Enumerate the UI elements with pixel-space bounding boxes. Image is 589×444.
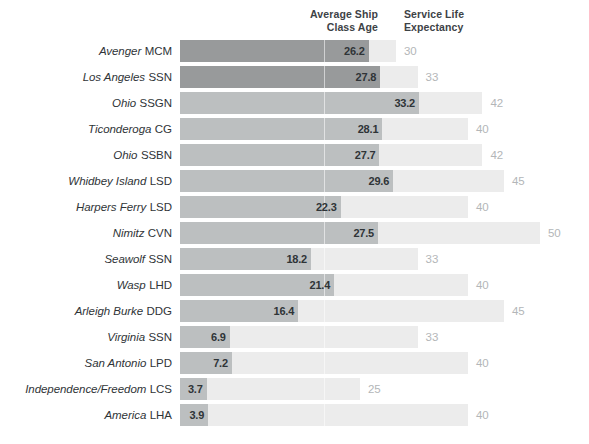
expectancy-value-label: 33 — [426, 248, 439, 270]
expectancy-value-label: 30 — [404, 40, 417, 62]
ship-class-name: Virginia — [107, 331, 145, 343]
row-label: Los AngelesSSN — [0, 66, 172, 88]
row-label: AvengerMCM — [0, 40, 172, 62]
expectancy-value-label: 40 — [476, 118, 489, 140]
ship-class-name: Independence/Freedom — [25, 383, 146, 395]
service-life-expectancy-bar — [180, 144, 482, 166]
gridline-20-years — [324, 300, 325, 322]
expectancy-value-label: 40 — [476, 196, 489, 218]
age-value-label: 7.2 — [198, 352, 228, 374]
ship-class-name: America — [104, 409, 146, 421]
hull-designation: LCS — [150, 383, 172, 395]
expectancy-value-label: 42 — [490, 92, 503, 114]
ship-class-name: Los Angeles — [83, 71, 145, 83]
hull-designation: SSN — [149, 253, 173, 265]
column-header-average-line1: Average Ship — [258, 8, 378, 21]
hull-designation: LPD — [150, 357, 172, 369]
ship-class-name: Seawolf — [104, 253, 145, 265]
age-value-label: 28.1 — [348, 118, 378, 140]
age-value-label: 22.3 — [307, 196, 337, 218]
gridline-20-years — [324, 92, 325, 114]
row-label: WaspLHD — [0, 274, 172, 296]
ship-class-name: Whidbey Island — [68, 175, 146, 187]
age-value-label: 26.2 — [335, 40, 365, 62]
age-value-label: 3.9 — [174, 404, 204, 426]
ship-class-name: Avenger — [99, 45, 141, 57]
chart-row: SeawolfSSN18.233 — [0, 248, 589, 270]
chart-row: VirginiaSSN6.933 — [0, 326, 589, 348]
hull-designation: CG — [155, 123, 172, 135]
row-label: SeawolfSSN — [0, 248, 172, 270]
chart-row: NimitzCVN27.550 — [0, 222, 589, 244]
expectancy-value-label: 33 — [426, 326, 439, 348]
gridline-20-years — [324, 378, 325, 400]
gridline-20-years — [324, 222, 325, 244]
column-header-average-ship-class-age: Average Ship Class Age — [258, 8, 378, 33]
chart-row: San AntonioLPD7.240 — [0, 352, 589, 374]
age-value-label: 18.2 — [277, 248, 307, 270]
ship-class-name: Harpers Ferry — [76, 201, 146, 213]
ship-class-name: San Antonio — [85, 357, 147, 369]
age-value-label: 27.8 — [346, 66, 376, 88]
expectancy-value-label: 40 — [476, 404, 489, 426]
hull-designation: SSN — [149, 71, 173, 83]
expectancy-value-label: 33 — [426, 66, 439, 88]
gridline-20-years — [324, 40, 325, 62]
chart-row: AmericaLHA3.940 — [0, 404, 589, 426]
gridline-20-years — [324, 326, 325, 348]
row-label: NimitzCVN — [0, 222, 172, 244]
gridline-20-years — [324, 144, 325, 166]
service-life-expectancy-bar — [180, 300, 504, 322]
ship-age-chart: Average Ship Class Age Service Life Expe… — [0, 0, 589, 444]
row-label: TiconderogaCG — [0, 118, 172, 140]
column-header-average-line2: Class Age — [258, 21, 378, 34]
age-value-label: 27.7 — [345, 144, 375, 166]
age-value-label: 27.5 — [344, 222, 374, 244]
expectancy-value-label: 40 — [476, 274, 489, 296]
expectancy-value-label: 40 — [476, 352, 489, 374]
gridline-20-years — [324, 118, 325, 140]
chart-row: WaspLHD21.440 — [0, 274, 589, 296]
expectancy-value-label: 50 — [548, 222, 561, 244]
chart-row: Arleigh BurkeDDG16.445 — [0, 300, 589, 322]
service-life-expectancy-bar — [180, 170, 504, 192]
expectancy-value-label: 45 — [512, 170, 525, 192]
chart-header: Average Ship Class Age Service Life Expe… — [0, 0, 589, 36]
ship-class-name: Wasp — [117, 279, 146, 291]
gridline-20-years — [324, 66, 325, 88]
gridline-20-years — [324, 352, 325, 374]
age-value-label: 6.9 — [196, 326, 226, 348]
chart-row: Whidbey IslandLSD29.645 — [0, 170, 589, 192]
expectancy-value-label: 42 — [490, 144, 503, 166]
age-value-label: 21.4 — [300, 274, 330, 296]
row-label: OhioSSBN — [0, 144, 172, 166]
hull-designation: LHD — [149, 279, 172, 291]
chart-row: OhioSSGN33.242 — [0, 92, 589, 114]
row-label: Arleigh BurkeDDG — [0, 300, 172, 322]
gridline-20-years — [324, 170, 325, 192]
age-value-label: 33.2 — [385, 92, 415, 114]
gridline-20-years — [324, 404, 325, 426]
row-label: Independence/FreedomLCS — [0, 378, 172, 400]
gridline-20-years — [324, 248, 325, 270]
ship-class-name: Nimitz — [113, 227, 145, 239]
hull-designation: CVN — [148, 227, 172, 239]
chart-row: Harpers FerryLSD22.340 — [0, 196, 589, 218]
row-label: OhioSSGN — [0, 92, 172, 114]
ship-class-name: Ticonderoga — [88, 123, 151, 135]
chart-row: Los AngelesSSN27.833 — [0, 66, 589, 88]
chart-row: AvengerMCM26.230 — [0, 40, 589, 62]
service-life-expectancy-bar — [180, 118, 468, 140]
expectancy-value-label: 45 — [512, 300, 525, 322]
row-label: AmericaLHA — [0, 404, 172, 426]
chart-row: OhioSSBN27.742 — [0, 144, 589, 166]
average-ship-class-age-bar — [180, 92, 419, 114]
age-value-label: 3.7 — [173, 378, 203, 400]
row-label: Whidbey IslandLSD — [0, 170, 172, 192]
hull-designation: LSD — [150, 175, 172, 187]
hull-designation: SSN — [149, 331, 173, 343]
hull-designation: SSBN — [141, 149, 172, 161]
column-header-service-line2: Expectancy — [404, 21, 534, 34]
hull-designation: SSGN — [140, 97, 172, 109]
age-value-label: 16.4 — [264, 300, 294, 322]
